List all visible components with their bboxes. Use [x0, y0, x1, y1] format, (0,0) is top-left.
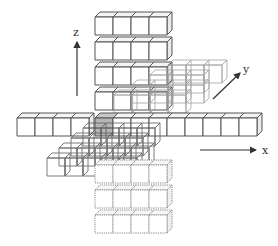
y-axis-label: y — [242, 63, 250, 76]
cube — [149, 87, 172, 110]
z-lower-column — [95, 160, 172, 233]
cube — [149, 37, 172, 60]
cube — [149, 62, 172, 85]
axis-y: y — [213, 63, 250, 99]
cube — [239, 113, 262, 136]
cube — [149, 160, 172, 183]
cube-cross-diagram: z y x — [0, 0, 278, 246]
cube — [149, 185, 172, 208]
axis-x: x — [200, 144, 269, 157]
z-axis-label: z — [73, 26, 79, 39]
x-axis-label: x — [262, 144, 269, 157]
y-axis-arrow-icon — [213, 73, 240, 99]
cubes-layer — [17, 12, 262, 233]
cube — [149, 210, 172, 233]
axis-z: z — [73, 26, 79, 96]
cube — [149, 12, 172, 35]
